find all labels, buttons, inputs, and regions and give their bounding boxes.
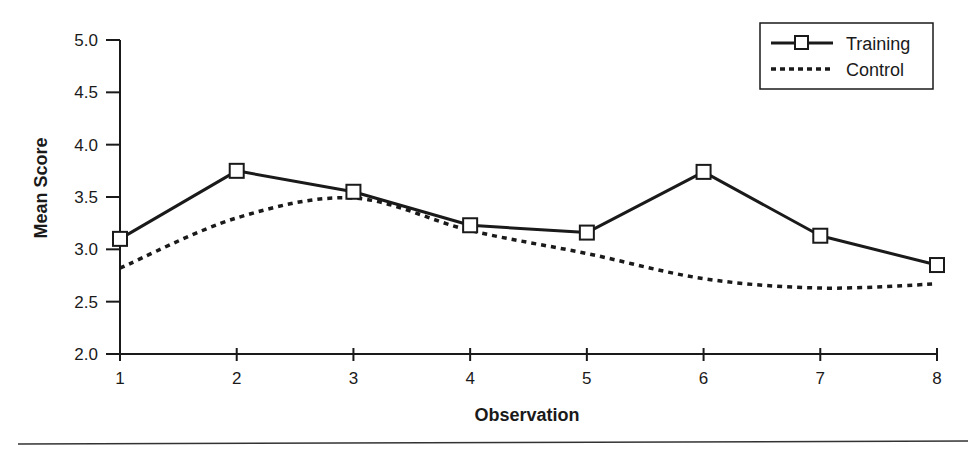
open-square-marker-icon xyxy=(697,165,711,179)
x-tick-label: 5 xyxy=(582,369,591,388)
line-chart: 2.02.53.03.54.04.55.0 12345678 Mean Scor… xyxy=(0,0,980,456)
x-tick-label: 1 xyxy=(115,369,124,388)
legend-control-label: Control xyxy=(846,60,904,80)
x-tick-label: 7 xyxy=(816,369,825,388)
footer-divider xyxy=(18,441,968,444)
series-layer xyxy=(113,164,944,288)
y-tick-label: 4.5 xyxy=(74,83,98,102)
y-tick-label: 5.0 xyxy=(74,31,98,50)
open-square-marker-icon xyxy=(230,164,244,178)
open-square-marker-icon xyxy=(580,226,594,240)
x-tick-label: 6 xyxy=(699,369,708,388)
y-tick-label: 3.0 xyxy=(74,240,98,259)
x-tick-label: 8 xyxy=(932,369,941,388)
y-tick-label: 2.5 xyxy=(74,293,98,312)
legend-training-label: Training xyxy=(846,34,910,54)
legend-training-square-marker-icon xyxy=(795,36,808,49)
y-tick-label: 4.0 xyxy=(74,136,98,155)
legend: Training Control xyxy=(760,23,933,89)
x-axis: 12345678 xyxy=(106,348,942,388)
open-square-marker-icon xyxy=(813,229,827,243)
y-axis: 2.02.53.03.54.04.55.0 xyxy=(74,31,120,364)
y-tick-label: 2.0 xyxy=(74,345,98,364)
open-square-marker-icon xyxy=(346,185,360,199)
open-square-marker-icon xyxy=(463,218,477,232)
x-axis-title: Observation xyxy=(474,405,579,425)
open-square-marker-icon xyxy=(113,232,127,246)
series-training xyxy=(113,164,944,272)
y-axis-title: Mean Score xyxy=(31,137,51,238)
x-tick-label: 3 xyxy=(349,369,358,388)
x-tick-label: 4 xyxy=(465,369,474,388)
x-tick-label: 2 xyxy=(232,369,241,388)
open-square-marker-icon xyxy=(930,258,944,272)
y-tick-label: 3.5 xyxy=(74,188,98,207)
